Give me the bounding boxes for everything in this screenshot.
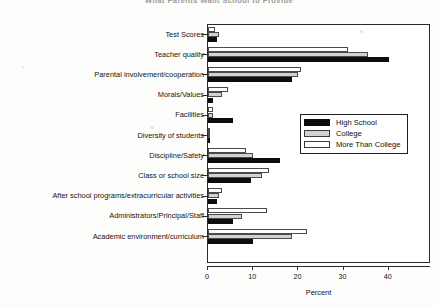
y-axis-tick <box>202 115 207 116</box>
x-axis-tick <box>207 266 208 270</box>
legend-label: More Than College <box>336 140 400 149</box>
legend-swatch-hs <box>304 119 330 126</box>
category-label: Discipline/Safety <box>149 151 204 160</box>
bar-high-school <box>208 98 213 103</box>
x-axis-tick <box>252 266 253 270</box>
category-label: After school programs/extracurricular ac… <box>52 191 204 200</box>
category-label: Facilities <box>175 110 204 119</box>
chart-legend: High SchoolCollegeMore Than College <box>300 114 408 154</box>
bar-high-school <box>208 239 253 244</box>
bar-high-school <box>208 178 251 183</box>
category-label: Teacher quality <box>154 50 204 59</box>
bar-high-school <box>208 37 217 42</box>
x-axis-line <box>207 266 430 267</box>
y-axis-tick <box>202 95 207 96</box>
x-axis-title: Percent <box>207 288 430 297</box>
y-axis-tick <box>202 175 207 176</box>
x-axis-tick <box>388 266 389 270</box>
bar-high-school <box>208 57 389 62</box>
y-axis-tick <box>202 54 207 55</box>
y-axis-tick <box>202 216 207 217</box>
x-axis-tick-label: 30 <box>332 272 354 281</box>
legend-row: High School <box>304 117 404 128</box>
y-axis-tick <box>202 34 207 35</box>
scan-speck <box>22 66 25 68</box>
y-axis-tick <box>202 196 207 197</box>
x-axis-tick <box>343 266 344 270</box>
category-label: Academic environment/curriculum <box>93 232 204 241</box>
legend-label: High School <box>336 118 377 127</box>
chart-title: What Parents Want School to Provide <box>0 0 438 4</box>
bar-chart-figure: What Parents Want School to Provide Test… <box>0 0 438 307</box>
legend-swatch-col <box>304 130 330 137</box>
y-axis-tick <box>202 155 207 156</box>
x-axis-tick <box>297 266 298 270</box>
bar-high-school <box>208 158 280 163</box>
x-axis-tick-label: 0 <box>196 272 218 281</box>
x-axis-tick-label: 10 <box>241 272 263 281</box>
legend-row: College <box>304 128 404 139</box>
scan-speck <box>150 126 154 129</box>
legend-row: More Than College <box>304 139 404 150</box>
bar-high-school <box>208 199 217 204</box>
y-axis-tick <box>202 236 207 237</box>
category-label: Test Scores <box>165 30 204 39</box>
y-axis-tick <box>202 135 207 136</box>
x-axis-tick-label: 20 <box>286 272 308 281</box>
category-label: Class or school size <box>138 171 204 180</box>
y-axis-tick <box>202 74 207 75</box>
bar-high-school <box>208 118 233 123</box>
bar-high-school <box>208 138 210 143</box>
category-label: Diversity of students <box>137 131 204 140</box>
category-label: Parental involvement/cooperation <box>94 70 204 79</box>
bar-high-school <box>208 77 292 82</box>
category-label: Administrators/Principal/Staff <box>109 211 204 220</box>
legend-swatch-mtc <box>304 141 330 148</box>
legend-label: College <box>336 129 362 138</box>
category-label: Morals/Values <box>158 90 204 99</box>
x-axis-tick-label: 40 <box>377 272 399 281</box>
scan-speck <box>360 30 363 33</box>
bar-high-school <box>208 219 233 224</box>
